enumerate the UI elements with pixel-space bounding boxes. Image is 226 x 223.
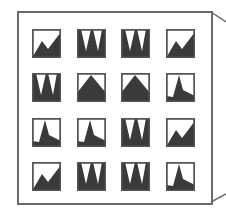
thumbnail-triple-spike-r0c2	[121, 29, 150, 58]
thumbnail-sharp-spike-r2c1	[77, 118, 106, 147]
thumbnail-zig-rise-r0c3	[166, 29, 195, 58]
thumbnail-zig-rise-r3c0	[32, 162, 61, 191]
thumbnail-zig-rise-r0c0	[32, 29, 61, 58]
thumbnail-sharp-spike-r3c3	[166, 162, 195, 191]
figure-canvas	[0, 0, 226, 223]
thumbnail-triple-spike-r3c1	[77, 162, 106, 191]
thumbnail-mountain-r1c1	[77, 73, 106, 102]
thumbnail-triple-spike-r1c0	[32, 73, 61, 102]
thumbnail-triple-spike-r0c1	[77, 29, 106, 58]
thumbnail-mountain-r1c2	[121, 73, 150, 102]
thumbnail-triple-spike-r2c2	[121, 118, 150, 147]
thumbnail-sharp-spike-r2c0	[32, 118, 61, 147]
thumbnail-zig-rise-r2c3	[166, 118, 195, 147]
thumbnail-triple-spike-r3c2	[121, 162, 150, 191]
thumbnail-sharp-spike-r1c3	[166, 73, 195, 102]
